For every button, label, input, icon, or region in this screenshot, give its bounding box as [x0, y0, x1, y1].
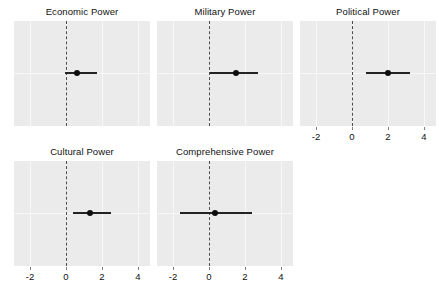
panel-title: Comprehensive Power [157, 146, 293, 157]
x-tick-mark [66, 267, 67, 270]
x-tick-mark [388, 127, 389, 130]
x-tick-mark [173, 267, 174, 270]
point-estimate-marker [233, 70, 239, 76]
point-estimate-marker [385, 70, 391, 76]
plot-area [157, 161, 293, 266]
plot-area [157, 21, 293, 126]
point-estimate-marker [87, 210, 93, 216]
x-tick-label: 0 [349, 131, 354, 142]
x-tick-mark [30, 267, 31, 270]
x-tick-label: 0 [63, 271, 68, 282]
x-tick-label: -2 [26, 271, 34, 282]
panel-cultural-power: Cultural Power -2 0 2 4 [14, 146, 150, 282]
x-axis: -2 0 2 4 [157, 267, 293, 282]
x-tick-mark [138, 267, 139, 270]
x-tick-mark [245, 267, 246, 270]
point-estimate-marker [74, 70, 80, 76]
panel-economic-power: Economic Power [14, 6, 150, 126]
x-axis: -2 0 2 4 [300, 127, 436, 142]
x-axis: -2 0 2 4 [14, 267, 150, 282]
panel-title: Cultural Power [14, 146, 150, 157]
zero-reference-line [66, 161, 67, 266]
x-tick-label: -2 [312, 131, 320, 142]
panel-comprehensive-power: Comprehensive Power -2 0 2 4 [157, 146, 293, 282]
x-tick-label: 2 [99, 271, 104, 282]
plot-area [300, 21, 436, 126]
x-tick-label: 0 [206, 271, 211, 282]
x-tick-label: -2 [169, 271, 177, 282]
x-tick-mark [102, 267, 103, 270]
panel-political-power: Political Power -2 0 2 4 [300, 6, 436, 142]
coefficient-plot-figure: Economic Power Military Power Political [0, 0, 439, 286]
point-estimate-marker [212, 210, 218, 216]
zero-reference-line [352, 21, 353, 126]
x-tick-mark [316, 127, 317, 130]
plot-area [14, 161, 150, 266]
panel-title: Economic Power [14, 6, 150, 17]
x-tick-label: 4 [135, 271, 140, 282]
x-tick-label: 2 [385, 131, 390, 142]
x-tick-mark [352, 127, 353, 130]
x-tick-label: 2 [242, 271, 247, 282]
panel-title: Military Power [157, 6, 293, 17]
x-tick-label: 4 [421, 131, 426, 142]
x-tick-mark [424, 127, 425, 130]
panel-military-power: Military Power [157, 6, 293, 126]
x-tick-label: 4 [278, 271, 283, 282]
x-tick-mark [281, 267, 282, 270]
plot-area [14, 21, 150, 126]
panel-title: Political Power [300, 6, 436, 17]
confidence-interval-bar [65, 72, 97, 74]
x-tick-mark [209, 267, 210, 270]
